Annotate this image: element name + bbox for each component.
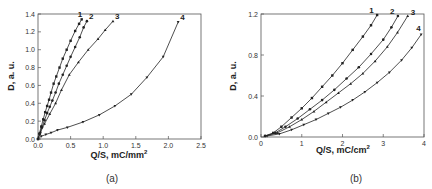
- series-line-3: [38, 21, 113, 139]
- y-tick-label: 0.4: [25, 100, 35, 107]
- y-axis-label-a: D, a. u.: [6, 61, 16, 91]
- data-marker: [69, 40, 71, 42]
- data-marker: [61, 73, 64, 76]
- y-tick-label: 1.4: [25, 11, 35, 18]
- data-marker: [52, 82, 54, 84]
- plot-frame-b: [261, 14, 424, 137]
- data-marker: [397, 15, 400, 18]
- data-marker: [74, 30, 76, 32]
- x-tick-label: 0.0: [33, 142, 43, 149]
- data-marker: [358, 66, 361, 69]
- curve-label-1: 1: [369, 6, 374, 15]
- curve-label-1: 1: [78, 10, 83, 19]
- data-marker: [65, 49, 67, 51]
- data-marker: [54, 102, 57, 105]
- y-tick-label: 1.0: [25, 46, 35, 53]
- data-marker: [333, 89, 336, 92]
- data-marker: [362, 35, 364, 37]
- data-marker: [55, 75, 57, 77]
- data-marker: [309, 108, 312, 111]
- data-marker: [370, 24, 372, 26]
- x-tick-label: 1.5: [131, 142, 141, 149]
- data-marker: [82, 26, 85, 29]
- data-marker: [280, 126, 282, 128]
- data-marker: [290, 116, 292, 118]
- x-axis-label-b: Q/S, mC/cm2: [316, 144, 371, 155]
- data-marker: [177, 21, 180, 24]
- y-axis-ticks-b: 0.00.40.81.2: [248, 11, 264, 141]
- curve-label-2: 2: [390, 7, 395, 16]
- x-tick-label: 4: [422, 140, 426, 147]
- data-marker: [51, 99, 54, 102]
- plot-frame-a: [38, 14, 201, 139]
- data-marker: [58, 82, 61, 85]
- curve-label-4: 4: [416, 24, 421, 33]
- chart-panel-b: 0.00.40.81.2 01234 1234 D, a. u. Q/S, mC…: [228, 6, 426, 184]
- data-marker: [74, 46, 77, 49]
- curve-label-3: 3: [115, 12, 120, 21]
- y-tick-label: 0.6: [25, 82, 35, 89]
- data-marker: [321, 99, 324, 102]
- data-marker: [406, 15, 409, 17]
- data-marker: [112, 20, 115, 23]
- data-marker: [331, 74, 333, 76]
- caption-a: (a): [106, 173, 118, 184]
- data-marker: [296, 117, 299, 120]
- y-tick-label: 0.0: [248, 134, 258, 141]
- x-tick-label: 1: [300, 140, 304, 147]
- data-marker: [54, 91, 57, 94]
- y-tick-label: 0.4: [248, 93, 258, 100]
- data-marker: [78, 36, 81, 39]
- series-line-2: [38, 21, 87, 139]
- y-axis-label-b: D, a. u.: [228, 61, 238, 91]
- figure: 0.00.20.40.60.81.01.21.4 0.00.51.01.52.0…: [0, 0, 432, 189]
- data-marker: [58, 66, 60, 68]
- y-tick-label: 0.8: [25, 64, 35, 71]
- data-marker: [65, 64, 68, 67]
- curve-label-4: 4: [180, 13, 185, 22]
- data-marker: [382, 38, 385, 41]
- data-marker: [48, 106, 51, 109]
- data-marker: [46, 105, 48, 107]
- series-line-3: [265, 16, 408, 136]
- x-axis-label-a: Q/S, mC/mm2: [91, 149, 149, 160]
- caption-b: (b): [350, 173, 362, 184]
- x-tick-label: 0.5: [66, 142, 76, 149]
- series-line-4: [267, 35, 421, 136]
- x-tick-label: 2.0: [164, 142, 174, 149]
- series-line-4: [38, 22, 178, 139]
- data-marker: [50, 91, 52, 93]
- data-marker: [311, 97, 313, 99]
- x-tick-label: 0: [259, 140, 263, 147]
- y-tick-label: 1.2: [25, 28, 35, 35]
- chart-panel-a: 0.00.20.40.60.81.01.21.4 0.00.51.01.52.0…: [6, 10, 206, 184]
- x-axis-ticks-a: 0.00.51.01.52.02.5: [33, 136, 206, 149]
- data-marker: [62, 57, 64, 59]
- series-group-b: 1234: [264, 6, 423, 137]
- y-tick-label: 1.2: [248, 11, 258, 18]
- data-marker: [370, 53, 373, 56]
- y-axis-ticks-a: 0.00.20.40.60.81.01.21.4: [25, 11, 41, 143]
- data-marker: [345, 77, 348, 80]
- data-marker: [341, 62, 343, 64]
- data-marker: [301, 107, 303, 109]
- x-tick-label: 1.0: [98, 142, 108, 149]
- y-tick-label: 0.2: [25, 118, 35, 125]
- x-tick-label: 3: [381, 140, 385, 147]
- data-marker: [376, 14, 378, 16]
- curve-label-2: 2: [89, 12, 94, 21]
- data-marker: [48, 99, 50, 101]
- data-marker: [78, 23, 80, 25]
- data-marker: [46, 112, 49, 115]
- data-marker: [86, 20, 89, 23]
- series-group-a: 1234: [37, 10, 186, 140]
- y-tick-label: 0.8: [248, 52, 258, 59]
- data-marker: [69, 56, 72, 59]
- data-marker: [43, 119, 46, 122]
- curve-label-3: 3: [411, 8, 416, 17]
- data-marker: [351, 49, 353, 51]
- x-tick-label: 2.5: [196, 142, 206, 149]
- data-marker: [284, 125, 287, 128]
- data-marker: [390, 26, 393, 29]
- data-marker: [321, 86, 323, 88]
